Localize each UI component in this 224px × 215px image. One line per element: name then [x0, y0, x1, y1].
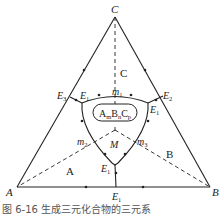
region-b-label: B [166, 148, 173, 160]
e2-label: E2 [162, 90, 172, 102]
compound-label: AmBnCp [99, 108, 131, 120]
vertex-c-label: C [111, 3, 119, 15]
e1-right-label: E1 [149, 104, 159, 116]
vertex-b-label: B [212, 186, 219, 198]
m1-label: m1 [112, 86, 122, 98]
vertex-a-label: A [5, 186, 13, 198]
m2-label: m2 [77, 136, 87, 148]
outer-triangle [17, 17, 210, 187]
figure-caption: 图 6-16 生成三元化合物的三元系 [2, 201, 224, 215]
m-label: M [109, 139, 119, 150]
region-a-label: A [66, 165, 74, 177]
dashed-joins [17, 17, 210, 187]
m3-label: m3 [137, 136, 147, 148]
e3-label: E3 [56, 90, 66, 102]
e1-mid-label: E1 [100, 163, 110, 175]
ternary-phase-diagram: AmBnCp C A B C A B E3 E1 m1 E2 E1 m2 M m… [0, 0, 224, 215]
e1-left-label: E1 [79, 90, 89, 102]
region-c-label: C [120, 67, 127, 79]
